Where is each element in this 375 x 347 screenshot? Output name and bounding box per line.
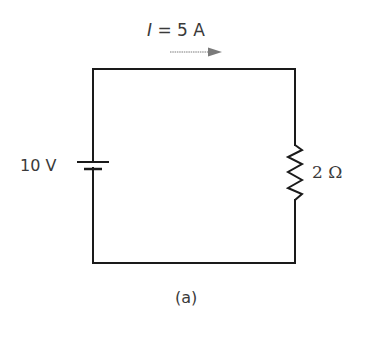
- caption: (a): [175, 288, 197, 307]
- resistor-icon: [288, 145, 302, 200]
- battery-icon: [77, 162, 109, 169]
- circuit-wires: [93, 69, 295, 263]
- current-label: I = 5 A: [147, 20, 205, 40]
- source-label: 10 V: [20, 156, 56, 175]
- current-arrow-icon: [170, 48, 222, 57]
- circuit-diagram: I = 5 A 10 V 2 Ω (a): [0, 0, 375, 347]
- load-label: 2 Ω: [312, 162, 342, 182]
